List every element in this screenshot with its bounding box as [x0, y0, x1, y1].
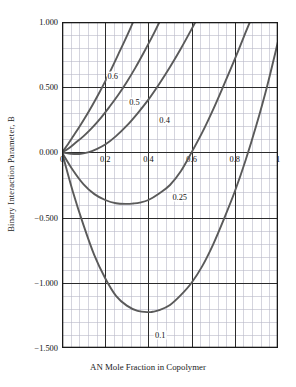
plot-area: 0.60.50.40.250.1 — [62, 22, 278, 348]
curve-label-0.25: 0.25 — [171, 193, 188, 202]
data-curves — [62, 22, 278, 312]
curve-label-0.5: 0.5 — [128, 97, 140, 106]
chart-figure: Binary Interaction Parameter, B 1.0000.5… — [0, 0, 296, 387]
curve-label-0.1: 0.1 — [154, 330, 166, 339]
plot-svg — [62, 22, 278, 348]
x-axis-title: AN Mole Fraction in Copolymer — [0, 362, 296, 372]
curve-label-0.4: 0.4 — [158, 115, 170, 124]
curve-0.25 — [62, 22, 252, 204]
x-axis-title-text: AN Mole Fraction in Copolymer — [90, 362, 206, 372]
curve-0.1 — [62, 42, 278, 313]
curve-label-0.6: 0.6 — [107, 72, 119, 81]
